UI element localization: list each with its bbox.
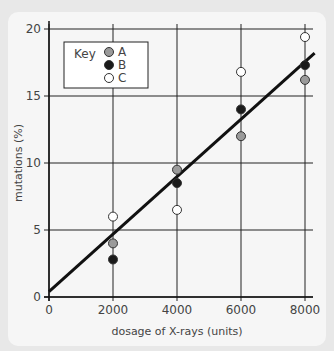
x-tick-label: 8000 bbox=[290, 303, 321, 317]
y-tick-label: 20 bbox=[26, 22, 41, 36]
data-point-c bbox=[301, 33, 310, 42]
trend-line bbox=[49, 53, 315, 292]
data-point-c bbox=[237, 67, 246, 76]
data-point-c bbox=[173, 205, 182, 214]
legend-marker-a bbox=[105, 48, 114, 57]
x-axis-label: dosage of X-rays (units) bbox=[111, 325, 242, 338]
scatter-chart: 0200040006000800005101520 dosage of X-ra… bbox=[0, 0, 334, 351]
x-tick-label: 6000 bbox=[226, 303, 257, 317]
legend-marker-c bbox=[105, 74, 114, 83]
data-point-a bbox=[301, 75, 310, 84]
data-point-c bbox=[109, 212, 118, 221]
data-point-b bbox=[109, 255, 118, 264]
y-tick-label: 15 bbox=[26, 89, 41, 103]
y-tick-label: 0 bbox=[33, 290, 41, 304]
legend-title: Key bbox=[74, 47, 96, 61]
x-tick-label: 4000 bbox=[162, 303, 193, 317]
x-tick-label: 2000 bbox=[98, 303, 129, 317]
legend-label: A bbox=[118, 45, 127, 59]
legend-label: C bbox=[118, 71, 126, 85]
legend: Key ABC bbox=[64, 42, 148, 88]
data-point-b bbox=[301, 61, 310, 70]
data-point-a bbox=[237, 132, 246, 141]
x-tick-label: 0 bbox=[45, 303, 53, 317]
y-axis-label: mutations (%) bbox=[12, 124, 25, 202]
legend-marker-b bbox=[105, 61, 114, 70]
data-point-b bbox=[237, 105, 246, 114]
legend-label: B bbox=[118, 58, 126, 72]
data-point-b bbox=[173, 179, 182, 188]
data-point-a bbox=[173, 165, 182, 174]
y-tick-label: 10 bbox=[26, 156, 41, 170]
data-point-a bbox=[109, 239, 118, 248]
y-tick-label: 5 bbox=[33, 223, 41, 237]
